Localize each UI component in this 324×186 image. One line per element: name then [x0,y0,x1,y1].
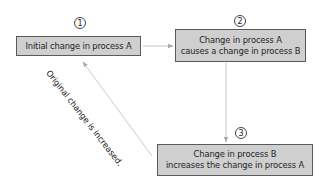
step-box-process-a-causes-b: Change in process A causes a change in p… [175,29,306,62]
step-2-text-line-1: Change in process A [199,35,282,46]
step-1-text: Initial change in process A [25,41,131,52]
step-number-2: 2 [234,15,246,27]
step-number-3: 3 [235,127,247,139]
step-3-text-line-2: increases the change in process A [166,160,304,171]
step-box-process-b-increases-a: Change in process B increases the change… [157,144,313,176]
step-3-text-line-1: Change in process B [194,149,277,160]
step-2-text-line-2: causes a change in process B [181,46,301,57]
feedback-loop-diagram: 1 Initial change in process A 2 Change i… [0,0,324,186]
arrow-step3-to-step1 [83,62,152,156]
step-number-1: 1 [74,17,86,29]
step-box-initial-change: Initial change in process A [16,36,141,56]
